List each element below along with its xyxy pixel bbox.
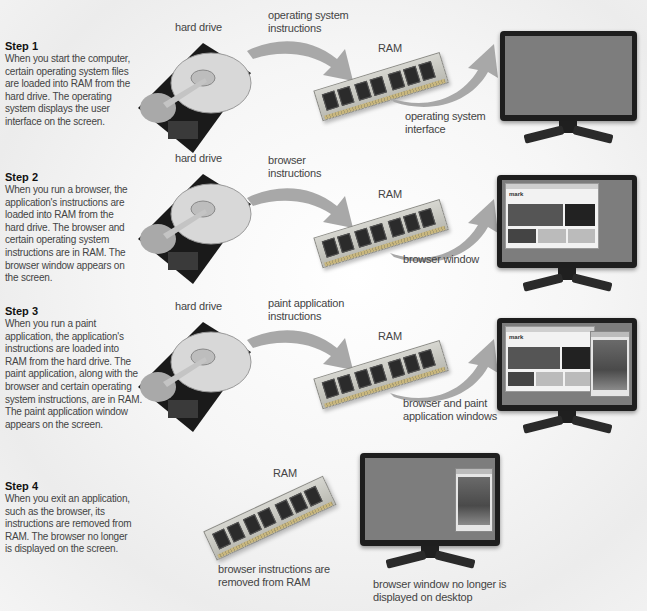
step-4-description: When you exit an application, such as th… [5, 493, 135, 556]
hard-drive-icon [133, 164, 253, 289]
browser-logo: mark [509, 191, 523, 197]
ram-label-4: RAM [273, 467, 297, 480]
hard-drive-icon [133, 312, 253, 437]
hard-drive-icon [133, 33, 253, 158]
arrow-icon [390, 335, 500, 405]
monitor-4 [360, 453, 500, 546]
arrow-icon [245, 322, 360, 372]
arrow-label-3: paint application instructions [268, 297, 398, 322]
hard-drive-label-1: hard drive [175, 21, 222, 34]
step-3-description: When you run a paint application, the ap… [5, 318, 142, 431]
desktop-screen: mark [502, 323, 632, 405]
arrow-label-2: browser instructions [268, 154, 358, 179]
step-2-title: Step 2 [5, 171, 38, 184]
desktop-screen: mark [502, 180, 632, 262]
arrow-label-1: operating system instructions [268, 9, 388, 34]
desktop-screen [505, 36, 632, 115]
browser-logo: mark [509, 334, 523, 340]
monitor-3: mark [497, 318, 637, 411]
monitor-1 [500, 31, 637, 121]
step-1-title: Step 1 [5, 40, 38, 53]
step-2-description: When you run a browser, the application'… [5, 184, 135, 285]
arrow-label-2-out: browser window [403, 253, 479, 266]
hard-drive-label-2: hard drive [175, 152, 222, 165]
desktop-screen [365, 458, 495, 540]
arrow-label-1-out: operating system interface [405, 110, 505, 135]
step-4-title: Step 4 [5, 480, 38, 493]
monitor-2: mark [497, 175, 637, 268]
arrow-icon [390, 40, 500, 110]
arrow-icon [245, 180, 360, 230]
step-3-title: Step 3 [5, 305, 38, 318]
paint-window [455, 468, 493, 532]
arrow-icon [245, 33, 360, 83]
hard-drive-label-3: hard drive [175, 300, 222, 313]
ram-module-icon [203, 476, 336, 561]
paint-window [590, 331, 630, 397]
browser-window: mark [505, 326, 595, 392]
ram-caption-4: browser instructions are removed from RA… [218, 563, 358, 588]
monitor-caption-4: browser window no longer is displayed on… [373, 578, 513, 603]
step-1-description: When you start the computer, certain ope… [5, 53, 140, 129]
browser-window: mark [505, 183, 599, 249]
